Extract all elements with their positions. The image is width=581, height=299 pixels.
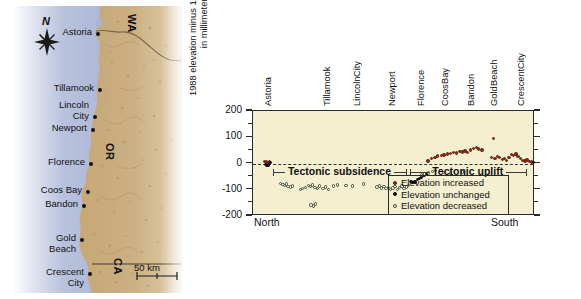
map-city-label: Bandon: [0, 199, 78, 209]
state-label-wa: WA: [126, 14, 138, 33]
map-city-label-line: Astoria: [0, 27, 92, 37]
legend-label: Elevation decreased: [401, 200, 487, 211]
right-axis-tick: [534, 149, 538, 150]
map-city-label: Coos Bay: [0, 185, 82, 195]
x-axis-north-label: North: [254, 216, 280, 228]
y-axis-tick-label: -200: [208, 209, 242, 220]
x-axis-city-label: Astoria: [263, 14, 273, 106]
location-map: N WA OR CA 50 km AstoriaTilla: [0, 0, 190, 299]
map-city-label-line: Gold: [0, 233, 76, 244]
map-city-dot: [96, 32, 100, 36]
map-city-label-line: Florence: [0, 157, 85, 167]
right-axis-tick: [534, 175, 538, 176]
zone-annotation-end-cap: [273, 169, 274, 176]
data-point: [332, 184, 335, 187]
y-axis-tick-label: -100: [208, 183, 242, 194]
map-city-label-line: City: [0, 111, 89, 122]
map-city-label-line: Beach: [0, 244, 76, 255]
map-city-label-line: Lincoln: [0, 100, 89, 111]
x-axis-city-label: Newport: [387, 14, 397, 106]
y-axis-title-line-2: in millimeters: [199, 0, 210, 96]
x-axis-city-label-line: Gold: [489, 86, 499, 106]
map-city-label-line: Crescent: [0, 267, 84, 278]
land-relief: [0, 0, 190, 299]
map-city-label-line: Tillamook: [0, 83, 94, 93]
y-axis-title: 1988 elevation minus 1931 elevation, in …: [188, 0, 210, 96]
data-point: [532, 161, 535, 164]
zone-annotation-rule: [394, 172, 406, 173]
x-axis-city-label: Bandon: [466, 14, 476, 106]
data-point: [327, 188, 330, 191]
map-city-dot: [98, 88, 102, 92]
legend-marker-icon: [393, 192, 397, 196]
y-axis-tick-label: 0: [208, 157, 242, 168]
map-city-label: Florence: [0, 157, 85, 167]
map-city-dot: [82, 204, 86, 208]
x-axis-city-label-line: Florence: [416, 70, 426, 106]
x-axis-city-label: LincolnCity: [352, 14, 362, 106]
map-city-dot: [93, 115, 97, 119]
right-axis-tick: [534, 136, 540, 137]
legend-label: Elevation increased: [401, 177, 484, 188]
map-city-label-line: Bandon: [0, 199, 78, 209]
data-point: [291, 184, 294, 187]
x-axis-city-label-line: Crescent: [516, 69, 526, 106]
x-axis-city-label-line: Coos: [440, 84, 450, 106]
right-axis-tick: [534, 123, 538, 124]
map-city-label: CrescentCity: [0, 267, 84, 288]
map-city-dot: [89, 162, 93, 166]
x-axis-city-label-line: City: [352, 61, 362, 77]
x-axis-city-label: Tillamook: [322, 14, 332, 106]
data-point: [492, 137, 495, 140]
legend-item: Elevation unchanged: [393, 189, 505, 201]
x-axis-city-label-line: Astoria: [263, 77, 273, 106]
state-label-ca: CA: [112, 258, 124, 275]
data-point: [362, 182, 365, 185]
map-city-dot: [86, 190, 90, 194]
x-axis-city-label-line: City: [516, 53, 526, 69]
data-point: [480, 148, 483, 151]
zone-annotation-rule: [410, 172, 429, 173]
y-axis-tick-label: 200: [208, 104, 242, 115]
right-axis-tick: [534, 214, 540, 215]
data-point: [505, 159, 508, 162]
map-city-dot: [88, 272, 92, 276]
data-point: [344, 184, 347, 187]
x-axis-city-label: CrescentCity: [516, 14, 526, 106]
zone-annotation-label: Tectonic subsidence: [288, 165, 391, 177]
compass-north-label: N: [42, 15, 50, 27]
x-axis-city-label-line: Lincoln: [352, 77, 362, 106]
scale-bar: [135, 268, 179, 290]
legend-label: Elevation unchanged: [401, 189, 490, 200]
map-city-label: GoldBeach: [0, 233, 76, 254]
zone-annotation-end-cap: [526, 169, 527, 176]
map-city-label: Astoria: [0, 27, 92, 37]
zone-annotation-rule: [273, 172, 285, 173]
zone-annotation-rule: [506, 172, 525, 173]
data-point: [336, 183, 339, 186]
data-point: [436, 154, 439, 157]
chart-legend: Elevation increasedElevation unchangedEl…: [388, 175, 509, 215]
legend-item: Elevation decreased: [393, 200, 505, 212]
map-city-dot: [80, 238, 84, 242]
legend-marker-icon: [393, 181, 397, 185]
y-axis-title-line-1: 1988 elevation minus 1931 elevation,: [188, 0, 199, 96]
map-city-dot: [91, 128, 95, 132]
legend-item: Elevation increased: [393, 177, 505, 189]
data-point: [351, 184, 354, 187]
y-axis-tick-label: 100: [208, 130, 242, 141]
x-axis-city-label-line: Newport: [387, 71, 397, 106]
legend-marker-icon: [393, 204, 397, 208]
state-label-or: OR: [104, 143, 116, 161]
x-axis-city-label: Florence: [416, 14, 426, 106]
map-city-label-line: City: [0, 278, 84, 289]
data-point: [314, 202, 317, 205]
right-axis-tick: [534, 201, 538, 202]
data-point: [426, 159, 429, 162]
map-city-label-line: Coos Bay: [0, 185, 82, 195]
map-city-label: Tillamook: [0, 83, 94, 93]
x-axis-city-label: GoldBeach: [489, 14, 499, 106]
data-point: [507, 156, 510, 159]
right-axis-tick: [534, 188, 540, 189]
x-axis-city-label-line: Bandon: [466, 74, 476, 106]
